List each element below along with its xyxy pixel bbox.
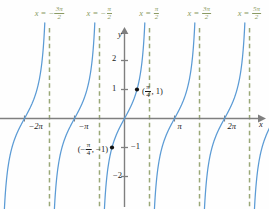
asymptote-label-4: x = 5π2 — [238, 6, 262, 22]
y-tick-label-0: 2 — [112, 54, 116, 63]
point-marker-1 — [110, 145, 114, 149]
asymptote-label-2: x = π2 — [139, 6, 159, 22]
asymptote-label-0: x = −3π2 — [35, 6, 65, 22]
axes-group — [0, 27, 266, 207]
y-axis-label: y — [118, 30, 122, 39]
x-tick-label-3: 2π — [228, 122, 237, 131]
asymptote-label-3: x = 3π2 — [188, 6, 212, 22]
point-marker-0 — [135, 87, 139, 91]
y-tick-label-3: −2 — [113, 171, 122, 180]
y-tick-label-1: 1 — [112, 84, 116, 93]
tangent-curve-branches — [0, 23, 269, 209]
x-tick-label-2: π — [178, 122, 182, 131]
point-label-1: (−π4, −1) — [78, 142, 108, 158]
tangent-graph-figure: x = −3π2x = −π2x = π2x = 3π2x = 5π2−2π−π… — [0, 0, 269, 209]
plot-area — [0, 0, 269, 209]
asymptote-label-1: x = −π2 — [86, 6, 112, 22]
y-tick-label-2: −1 — [131, 142, 140, 151]
x-tick-label-0: −2π — [28, 122, 42, 131]
point-label-0: (π4, 1) — [142, 84, 163, 100]
x-axis-label: x — [259, 120, 263, 129]
x-tick-label-1: −π — [78, 122, 88, 131]
